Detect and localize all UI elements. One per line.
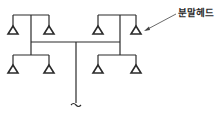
callout-arrow-line: [146, 14, 176, 30]
left-branch: [8, 15, 54, 73]
break-symbol-icon: [71, 104, 81, 107]
powder-head-label: 분말헤드: [178, 7, 214, 18]
powder-head-icon: [44, 65, 54, 73]
powder-head-icon: [93, 65, 103, 73]
main-trunk: [31, 42, 120, 107]
powder-head-icon: [44, 26, 54, 34]
right-branch: [93, 15, 141, 73]
arrowhead-icon: [144, 27, 150, 32]
powder-head-icon: [131, 65, 141, 73]
powder-head-icon: [8, 26, 18, 34]
powder-head-icon: [93, 26, 103, 34]
powder-head-piping-diagram: 분말헤드: [0, 0, 218, 117]
callout: 분말헤드: [144, 7, 214, 31]
powder-head-icon: [8, 65, 18, 73]
powder-head-icon: [131, 26, 141, 34]
